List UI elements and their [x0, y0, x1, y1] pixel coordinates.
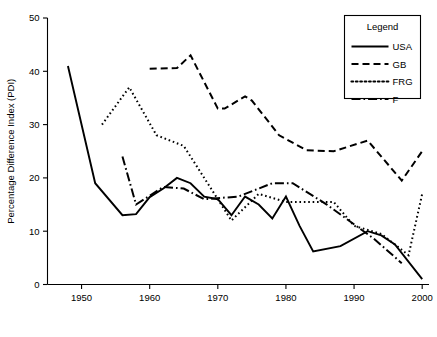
y-tick-label: 50	[29, 12, 40, 23]
y-tick-label: 10	[29, 226, 40, 237]
x-tick-label: 1990	[343, 292, 364, 303]
y-axis-title: Percentage Difference Index (PDI)	[5, 79, 16, 224]
x-tick-label: 1970	[207, 292, 228, 303]
chart-legend: LegendUSAGBFRGF	[345, 16, 421, 105]
x-tick-label: 1980	[275, 292, 296, 303]
legend-label-usa: USA	[393, 41, 413, 52]
x-tick-label: 1950	[71, 292, 92, 303]
y-tick-label: 40	[29, 66, 40, 77]
legend-label-f: F	[393, 94, 399, 105]
legend-label-frg: FRG	[393, 76, 413, 87]
x-tick-label: 1960	[139, 292, 160, 303]
x-tick-label: 2000	[412, 292, 433, 303]
legend-title: Legend	[367, 21, 399, 32]
line-chart: 01020304050195019601970198019902000Perce…	[0, 0, 437, 337]
y-tick-label: 30	[29, 119, 40, 130]
y-tick-label: 0	[34, 279, 39, 290]
legend-label-gb: GB	[393, 59, 407, 70]
chart-root: 01020304050195019601970198019902000Perce…	[0, 0, 437, 337]
series-line-f	[122, 157, 401, 264]
y-tick-label: 20	[29, 172, 40, 183]
